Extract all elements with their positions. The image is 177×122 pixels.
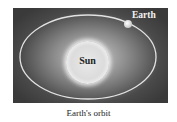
diagram-caption: Earth's orbit	[0, 108, 177, 118]
sun-label: Sun	[66, 55, 109, 66]
earth-label: Earth	[132, 10, 156, 20]
earth-icon	[124, 20, 132, 28]
